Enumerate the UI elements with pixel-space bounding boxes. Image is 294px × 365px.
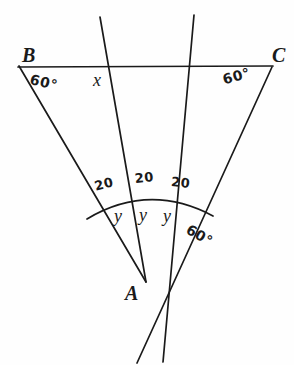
vertex-label-c: C (272, 45, 285, 65)
variable-label-x: x (93, 71, 101, 89)
segment-label-right: 20 (171, 175, 191, 190)
vertex-label-b: B (22, 45, 35, 65)
angle-arc-icon (87, 200, 213, 219)
segment-label-middle: 20 (134, 170, 154, 185)
geometry-figure: B C A 60° 60° 60° 20 20 20 x y y y (0, 0, 294, 365)
variable-label-y-3: y (163, 207, 171, 225)
line-side-ac-extended (137, 67, 272, 363)
vertex-label-a: A (125, 283, 138, 303)
variable-label-y-2: y (139, 206, 147, 224)
variable-label-y-1: y (114, 207, 122, 225)
